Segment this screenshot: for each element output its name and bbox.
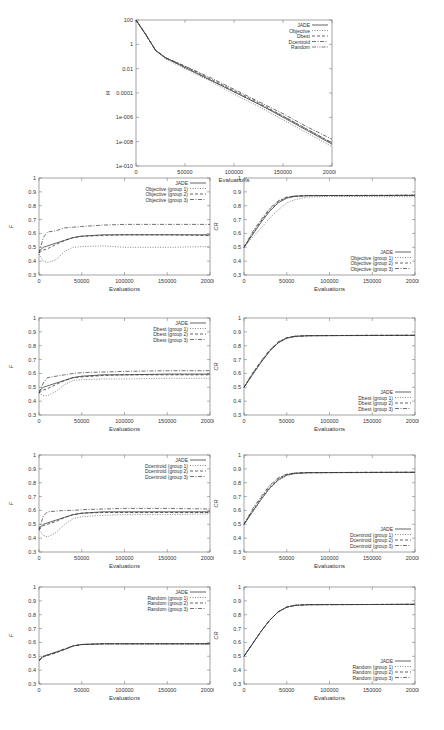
y-tick-label: 0.7 xyxy=(28,626,36,632)
legend-label: Random xyxy=(291,44,310,50)
chart-dbest-F: 0500001000001500002000000.30.40.50.60.70… xyxy=(7,314,214,441)
y-tick-label: 0.3 xyxy=(28,272,36,278)
chart-random-CR: 0500001000001500002000000.30.40.50.60.70… xyxy=(212,583,419,710)
y-axis-label: F xyxy=(8,364,14,368)
y-tick-label: 0.6 xyxy=(233,507,241,513)
y-tick-label: 0.7 xyxy=(233,217,241,223)
y-tick-label: 0.3 xyxy=(233,549,241,555)
y-tick-label: 0.6 xyxy=(233,639,241,645)
y-tick-label: 0.5 xyxy=(233,384,241,390)
x-axis-label: Evaluations xyxy=(314,426,345,432)
y-tick-label: 0.5 xyxy=(28,653,36,659)
x-tick-label: 150000 xyxy=(363,555,381,561)
y-axis-label: f4 xyxy=(105,91,111,96)
x-tick-label: 50000 xyxy=(74,555,89,561)
x-tick-label: 150000 xyxy=(158,555,176,561)
y-axis-label: CR xyxy=(213,223,219,231)
y-tick-label: 1 xyxy=(238,584,241,590)
series-line xyxy=(244,195,415,247)
legend-label: Random (group 3) xyxy=(147,606,188,612)
x-tick-label: 50000 xyxy=(74,687,89,693)
x-tick-label: 200000 xyxy=(406,278,419,284)
series-line xyxy=(244,604,415,656)
series-line xyxy=(39,644,210,661)
y-tick-label: 0.4 xyxy=(28,258,36,264)
series-line xyxy=(39,512,210,529)
y-axis-label: F xyxy=(8,224,14,228)
x-axis-label: Evaluations xyxy=(314,695,345,701)
series-line xyxy=(244,196,415,247)
y-tick-label: 1 xyxy=(238,315,241,321)
y-tick-label: 0.0001 xyxy=(116,90,133,96)
y-tick-label: 0.8 xyxy=(28,480,36,486)
series-line xyxy=(244,472,415,524)
y-tick-label: 0.3 xyxy=(28,412,36,418)
y-tick-label: 0.5 xyxy=(233,521,241,527)
y-tick-label: 0.9 xyxy=(28,189,36,195)
x-tick-label: 50000 xyxy=(279,418,294,424)
y-tick-label: 0.9 xyxy=(233,466,241,472)
series-line xyxy=(244,195,415,247)
chart-dcentroid-CR: 0500001000001500002000000.30.40.50.60.70… xyxy=(212,451,419,578)
y-tick-label: 0.7 xyxy=(233,494,241,500)
x-tick-label: 50000 xyxy=(279,687,294,693)
series-line xyxy=(39,235,210,253)
y-tick-label: 0.8 xyxy=(28,203,36,209)
y-axis-label: F xyxy=(8,501,14,505)
y-tick-label: 0.4 xyxy=(233,258,241,264)
series-line xyxy=(39,235,210,252)
y-tick-label: 0.8 xyxy=(233,480,241,486)
series-line xyxy=(244,335,415,387)
x-tick-label: 0 xyxy=(37,278,40,284)
x-tick-label: 150000 xyxy=(363,687,381,693)
y-tick-label: 1e-006 xyxy=(116,114,133,120)
x-tick-label: 50000 xyxy=(74,278,89,284)
y-tick-label: 1 xyxy=(130,41,133,47)
x-tick-label: 100000 xyxy=(320,418,338,424)
y-tick-label: 1 xyxy=(33,315,36,321)
y-tick-label: 0.5 xyxy=(233,653,241,659)
x-tick-label: 50000 xyxy=(279,555,294,561)
series-line xyxy=(39,375,210,393)
y-tick-label: 0.6 xyxy=(233,230,241,236)
x-axis-label: Evaluations xyxy=(109,563,140,569)
x-axis-label: Evaluations xyxy=(109,426,140,432)
y-tick-label: 0.3 xyxy=(28,549,36,555)
x-axis-label: Evaluations xyxy=(109,286,140,292)
y-tick-label: 0.7 xyxy=(233,626,241,632)
chart-top: 05000010000015000020000010010.010.00011e… xyxy=(104,16,336,192)
x-tick-label: 150000 xyxy=(158,687,176,693)
series-line xyxy=(244,472,415,524)
y-axis-label: CR xyxy=(213,363,219,371)
y-tick-label: 0.4 xyxy=(233,667,241,673)
x-tick-label: 100000 xyxy=(320,555,338,561)
y-tick-label: 1 xyxy=(33,175,36,181)
x-tick-label: 150000 xyxy=(363,278,381,284)
y-tick-label: 0.3 xyxy=(28,681,36,687)
y-tick-label: 0.7 xyxy=(28,217,36,223)
series-line xyxy=(39,224,210,252)
y-tick-label: 0.6 xyxy=(28,507,36,513)
chart-dbest-CR: 0500001000001500002000000.30.40.50.60.70… xyxy=(212,314,419,441)
y-tick-label: 0.4 xyxy=(233,535,241,541)
chart-objective-F: 0500001000001500002000000.30.40.50.60.70… xyxy=(7,174,214,301)
y-tick-label: 0.8 xyxy=(28,612,36,618)
y-tick-label: 0.6 xyxy=(28,370,36,376)
legend-label: Objective (group 3) xyxy=(145,197,188,203)
x-tick-label: 200000 xyxy=(406,418,419,424)
y-tick-label: 0.4 xyxy=(233,398,241,404)
legend-label: Dcentroid (group 3) xyxy=(145,474,188,480)
y-tick-label: 0.01 xyxy=(122,66,133,72)
series-line xyxy=(244,604,415,656)
y-axis-label: CR xyxy=(213,500,219,508)
x-tick-label: 0 xyxy=(242,555,245,561)
y-tick-label: 0.4 xyxy=(28,535,36,541)
series-line xyxy=(244,336,415,388)
x-tick-label: 0 xyxy=(37,687,40,693)
y-axis-label: CR xyxy=(213,632,219,640)
chart-random-F: 0500001000001500002000000.30.40.50.60.70… xyxy=(7,583,214,710)
legend-label: Dbest (group 3) xyxy=(358,406,393,412)
x-tick-label: 0 xyxy=(37,555,40,561)
y-tick-label: 1 xyxy=(238,452,241,458)
y-tick-label: 0.5 xyxy=(233,244,241,250)
